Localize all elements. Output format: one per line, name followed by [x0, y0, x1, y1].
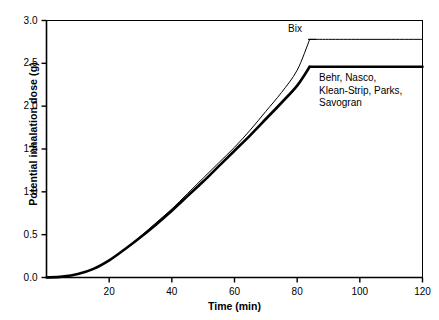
series-bix [47, 39, 423, 277]
chart-figure: Potential inhalation dose (g) Time (min)… [0, 0, 439, 320]
series-lines [47, 39, 423, 277]
series-group [47, 67, 423, 278]
plot-area [0, 0, 439, 320]
